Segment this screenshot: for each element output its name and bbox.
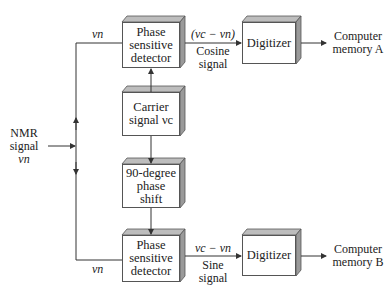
block-label: sensitive (129, 39, 173, 52)
block-label: shift (126, 193, 176, 206)
sine-signal-label: νc − νn Sine signal (188, 242, 238, 285)
sine-expr: νc − νn (188, 242, 238, 255)
cosine-signal-label: (νc − νn) Cosine signal (188, 28, 238, 71)
computer-memory-b: Computer memory B (330, 243, 386, 269)
phase-sensitive-detector-bottom: Phase sensitive detector (122, 235, 180, 282)
top-branch-label: νn (92, 28, 103, 41)
phase-sensitive-detector-top: Phase sensitive detector (122, 22, 180, 68)
block-label: Digitizer (247, 37, 291, 50)
block-label: 90-degree (126, 167, 176, 180)
input-symbol: νn (4, 153, 44, 166)
digitizer-a: Digitizer (242, 22, 296, 64)
computer-memory-a: Computer memory A (330, 30, 386, 56)
bottom-branch-label: νn (92, 263, 103, 276)
block-label: Digitizer (247, 249, 291, 262)
block-label: phase (126, 180, 176, 193)
cosine-expr: (νc − νn) (188, 28, 238, 41)
carrier-signal-block: Carrier signal νc (122, 92, 180, 136)
block-label: detector (129, 265, 173, 278)
phase-shift-block: 90-degree phase shift (122, 164, 180, 208)
digitizer-b: Digitizer (242, 235, 296, 276)
nmr-signal-label: NMR signal νn (4, 127, 44, 166)
block-label: Phase (129, 26, 173, 39)
output-line2: memory A (330, 43, 386, 56)
output-line2: memory B (330, 256, 386, 269)
sine-line2: signal (188, 272, 238, 285)
block-label: detector (129, 52, 173, 65)
cosine-line2: signal (188, 58, 238, 71)
block-label: signal νc (129, 114, 173, 127)
